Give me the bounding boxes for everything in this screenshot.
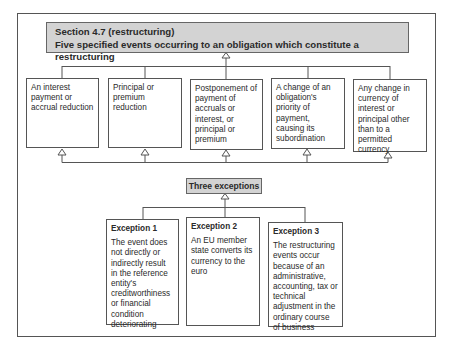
header-title: Section 4.7 (restructuring) [55, 26, 400, 39]
exception-title: Exception 1 [111, 224, 174, 234]
event-box-3: Postponement of payment of accruals or i… [190, 79, 263, 150]
three-exceptions-label: Three exceptions [189, 181, 260, 191]
event-text: An interest payment or accrual reduction [31, 83, 93, 112]
exception-box-2: Exception 2 An EU member state converts … [186, 217, 260, 326]
arrowhead-icon [58, 149, 66, 155]
exception-text: An EU member state converts its currency… [191, 236, 252, 276]
exception-box-1: Exception 1 The event does not directly … [106, 219, 179, 325]
arrowhead-icon [222, 150, 230, 156]
exception-box-3: Exception 3 The restructuring events occ… [268, 222, 343, 327]
event-box-5: Any change in currency of interest or pr… [353, 79, 427, 152]
event-text: Any change in currency of interest or pr… [358, 84, 410, 154]
exception-title: Exception 3 [273, 227, 338, 237]
exception-text: The restructuring events occur because o… [273, 241, 338, 332]
three-exceptions-box: Three exceptions [186, 178, 262, 194]
event-box-2: Principal or premium reduction [108, 78, 182, 148]
event-box-4: A change of an obligation's priority of … [271, 78, 345, 149]
event-text: Principal or premium reduction [113, 83, 154, 112]
event-box-1: An interest payment or accrual reduction [26, 78, 99, 148]
header-subtitle: Five specified events occurring to an ob… [55, 39, 400, 64]
event-text: A change of an obligation's priority of … [276, 83, 331, 143]
arrowhead-icon [221, 194, 229, 200]
exception-text: The event does not directly or indirectl… [111, 238, 170, 329]
event-text: Postponement of payment of accruals or i… [195, 84, 257, 144]
exception-title: Exception 2 [191, 222, 255, 232]
arrowhead-icon [303, 149, 311, 155]
arrowhead-icon [141, 149, 149, 155]
section-header-box: Section 4.7 (restructuring) Five specifi… [46, 22, 409, 53]
